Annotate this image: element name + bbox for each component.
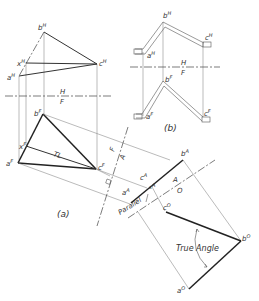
fold-fa-left: F <box>108 145 117 152</box>
fold-hf-b-upper: H <box>181 59 187 67</box>
right-angle-mark <box>106 179 111 184</box>
front-view-triangle <box>18 114 96 169</box>
pipe-top-view <box>134 22 211 54</box>
label-a-a: aA <box>122 187 130 197</box>
fold-hf-lower: F <box>60 98 65 106</box>
top-view-triangle <box>19 32 97 76</box>
arrow-icon <box>196 229 199 232</box>
label-a-h: aH <box>7 72 15 82</box>
fold-hf-upper: H <box>60 88 66 96</box>
fold-fa-right: A <box>118 153 127 161</box>
true-length-label: TL <box>52 150 62 160</box>
panel-b-projectors <box>143 22 203 117</box>
fold-ao-upper: A <box>172 176 178 184</box>
label-x-h: xH <box>16 58 25 68</box>
projector-lines-oblique <box>138 160 241 289</box>
label-b-o: bO <box>242 233 250 243</box>
label-b-h-b: bH <box>163 10 171 20</box>
label-a-o: aO <box>177 285 185 295</box>
label-c-a: cA <box>140 172 148 182</box>
label-b-f-b: bF <box>165 74 172 84</box>
caption-b: (b) <box>164 123 177 133</box>
label-c-h-b: cH <box>205 32 213 42</box>
label-a-f-b: aF <box>146 111 153 121</box>
label-x-a: xA <box>148 182 156 190</box>
label-b-f: bF <box>34 108 41 118</box>
caption-a: (a) <box>57 209 70 219</box>
projector-lines-a <box>19 32 97 169</box>
label-a-f: aF <box>6 158 13 168</box>
label-a-h-b: aH <box>147 50 155 60</box>
parallel-arrow <box>146 194 148 202</box>
descriptive-geometry-figure: bH xH aH cH H F bF xF aF cF TL F A bA cA… <box>0 0 259 301</box>
label-c-h: cH <box>99 58 107 68</box>
label-c-f-b: cF <box>204 108 211 118</box>
label-b-h: bH <box>38 22 46 32</box>
label-c-o: cO <box>163 202 171 212</box>
fold-ao-lower: O <box>177 187 183 195</box>
fold-hf-b-lower: F <box>181 69 186 77</box>
label-c-f: cF <box>98 162 105 172</box>
label-b-a: bA <box>181 148 189 158</box>
true-angle-label: True Angle <box>176 244 219 253</box>
